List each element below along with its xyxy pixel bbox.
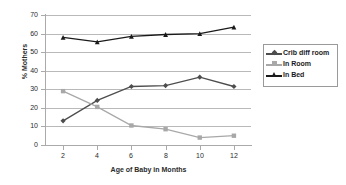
data-point-marker	[163, 127, 167, 131]
x-axis-tick	[131, 146, 132, 150]
x-axis-tick	[234, 146, 235, 150]
data-point-marker	[60, 118, 65, 123]
y-axis-tick-label: 20	[16, 104, 38, 112]
y-axis-tick-label: 60	[16, 30, 38, 38]
data-point-marker	[197, 75, 202, 80]
data-point-marker	[129, 123, 133, 127]
y-axis-tick-label: 30	[16, 85, 38, 93]
x-axis-tick-label: 6	[121, 152, 141, 160]
series-line-in-bed	[63, 27, 234, 42]
x-axis-tick-label: 12	[224, 152, 244, 160]
legend-item-in-bed[interactable]: In Bed	[266, 71, 334, 80]
legend-label-crib-diff-room: Crib diff room	[283, 49, 329, 57]
data-point-marker	[163, 83, 168, 88]
x-axis-tick	[97, 146, 98, 150]
legend-marker-in-room	[266, 60, 282, 69]
x-axis-tick	[166, 146, 167, 150]
data-point-marker	[61, 89, 65, 93]
chart-legend: Crib diff room In Room In Bed	[263, 44, 338, 87]
chart-container: % Mothers 010203040506070 24681012 Age o…	[0, 0, 346, 185]
series-line-in-room	[63, 91, 234, 138]
y-axis-tick-label: 70	[16, 11, 38, 19]
y-axis-tick-label: 0	[16, 141, 38, 149]
legend-label-in-bed: In Bed	[283, 71, 304, 79]
x-axis-line	[45, 145, 252, 146]
data-point-marker	[129, 84, 134, 89]
plot-area	[46, 15, 251, 145]
data-point-marker	[232, 134, 236, 138]
x-axis-title: Age of Baby in Months	[46, 166, 251, 173]
y-axis-tick-label: 10	[16, 122, 38, 130]
data-point-marker	[95, 105, 99, 109]
x-axis-tick	[63, 146, 64, 150]
y-axis-tick-label: 40	[16, 67, 38, 75]
x-axis-tick-label: 2	[53, 152, 73, 160]
legend-item-crib-diff-room[interactable]: Crib diff room	[266, 49, 334, 58]
y-axis-title: % Mothers	[21, 32, 28, 92]
legend-marker-in-bed	[266, 71, 282, 80]
legend-marker-crib-diff-room	[266, 49, 282, 58]
x-axis-tick-label: 8	[156, 152, 176, 160]
legend-label-in-room: In Room	[283, 60, 311, 68]
series-layer	[46, 15, 251, 145]
legend-item-in-room[interactable]: In Room	[266, 60, 334, 69]
x-axis-tick-label: 4	[87, 152, 107, 160]
x-axis-tick	[200, 146, 201, 150]
y-axis-tick-label: 50	[16, 48, 38, 56]
series-line-crib-diff-room	[63, 77, 234, 121]
data-point-marker	[231, 84, 236, 89]
data-point-marker	[198, 135, 202, 139]
x-axis-tick-label: 10	[190, 152, 210, 160]
